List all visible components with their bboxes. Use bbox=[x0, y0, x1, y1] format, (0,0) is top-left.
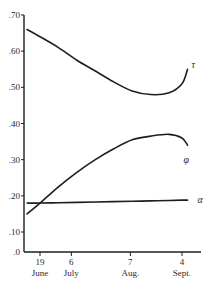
alpha-label: α bbox=[198, 194, 204, 205]
x-tick-day-label: 19 bbox=[36, 257, 46, 267]
y-tick-label: .30 bbox=[9, 155, 21, 165]
y-tick-label: .40 bbox=[9, 119, 21, 129]
phi-label: φ bbox=[184, 154, 190, 165]
tau-label: τ bbox=[192, 59, 196, 70]
x-tick-day-label: 7 bbox=[128, 257, 133, 267]
y-tick-label: .10 bbox=[9, 227, 21, 237]
x-tick-month-label: Aug. bbox=[121, 268, 139, 278]
series-labels: τφα bbox=[184, 59, 204, 205]
x-tick-month-label: June bbox=[32, 268, 49, 278]
tau-curve bbox=[27, 29, 187, 94]
line-chart: .0.10.20.30.40.50.60.70 19June6July7Aug.… bbox=[0, 0, 208, 285]
y-tick-label: .50 bbox=[9, 82, 21, 92]
y-tick-label: .60 bbox=[9, 46, 21, 56]
chart-canvas: .0.10.20.30.40.50.60.70 19June6July7Aug.… bbox=[0, 0, 208, 285]
alpha-curve bbox=[27, 200, 187, 203]
y-axis-ticks: .0.10.20.30.40.50.60.70 bbox=[9, 10, 24, 257]
x-tick-day-label: 6 bbox=[69, 257, 74, 267]
x-tick-month-label: Sept. bbox=[173, 268, 191, 278]
series-lines bbox=[27, 29, 187, 213]
x-axis-ticks: 19June6July7Aug.4Sept. bbox=[32, 252, 191, 278]
x-tick-day-label: 4 bbox=[180, 257, 185, 267]
y-tick-label: .0 bbox=[13, 247, 20, 257]
y-tick-label: .20 bbox=[9, 191, 21, 201]
y-tick-label: .70 bbox=[9, 10, 21, 20]
axes bbox=[24, 15, 201, 252]
x-tick-month-label: July bbox=[64, 268, 80, 278]
